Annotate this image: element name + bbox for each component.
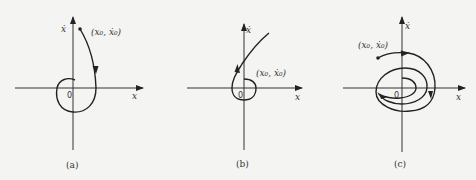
x-axis-label: x: [456, 92, 461, 102]
origin-label: 0: [238, 91, 243, 100]
phase-portrait-figure: ẋ (x₀, ẋ₀) 0 x (a) ẋ (x₀, ẋ₀) 0 x (b) ẋ …: [0, 0, 476, 180]
start-point: [376, 56, 380, 60]
trajectory-curve: [57, 29, 96, 112]
start-point-label: (x₀, ẋ₀): [91, 27, 122, 37]
panel-caption: (c): [394, 159, 406, 169]
direction-arrow-icon: [93, 66, 99, 74]
x-axis-label: x: [132, 91, 137, 101]
y-axis-label: ẋ: [405, 21, 410, 31]
y-axis-label: ẋ: [246, 25, 251, 35]
panel-b: ẋ (x₀, ẋ₀) 0 x (b): [187, 24, 302, 169]
start-point-label: (x₀, ẋ₀): [358, 40, 389, 50]
trajectory-curve: [376, 53, 435, 112]
origin-label: 0: [67, 91, 72, 100]
origin-label: 0: [394, 91, 399, 100]
start-point-label: (x₀, ẋ₀): [256, 68, 287, 78]
start-point: [78, 27, 82, 31]
panel-c: ẋ (x₀, ẋ₀) 0 x (c): [343, 17, 465, 169]
y-axis-label: ẋ: [61, 24, 66, 34]
panel-caption: (b): [236, 159, 249, 169]
panel-a: ẋ (x₀, ẋ₀) 0 x (a): [15, 17, 143, 170]
panel-caption: (a): [66, 160, 78, 170]
x-axis-label: x: [295, 92, 300, 102]
